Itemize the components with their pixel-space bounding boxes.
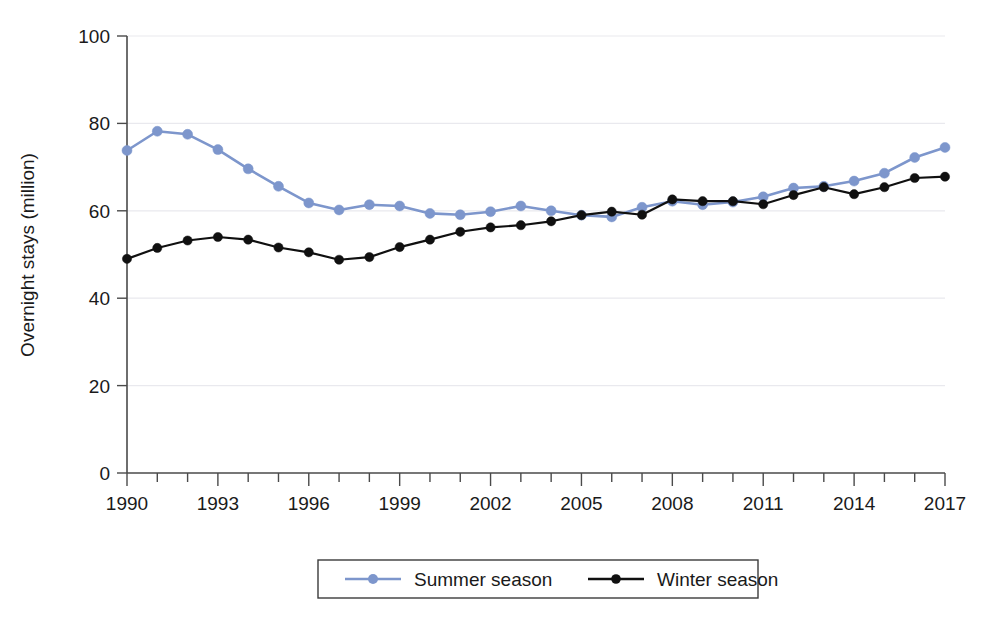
chart-canvas: 020406080100 199019931996199920022005200… <box>0 0 983 624</box>
data-point <box>789 190 798 199</box>
data-point <box>334 205 344 215</box>
data-point <box>516 201 526 211</box>
legend-label: Summer season <box>414 569 552 590</box>
data-point <box>486 223 495 232</box>
x-axis: 1990199319961999200220052008201120142017 <box>106 473 966 514</box>
data-point <box>122 145 132 155</box>
data-point <box>728 197 737 206</box>
x-tick-label: 2005 <box>560 493 602 514</box>
data-point <box>304 248 313 257</box>
data-point <box>425 235 434 244</box>
series-winter <box>122 172 949 264</box>
data-point <box>940 172 949 181</box>
y-tick-label: 0 <box>99 463 110 484</box>
data-point <box>516 221 525 230</box>
data-point <box>455 210 465 220</box>
data-point <box>334 255 343 264</box>
data-point <box>668 195 677 204</box>
y-tick-label: 60 <box>89 201 110 222</box>
x-tick-label: 2002 <box>469 493 511 514</box>
y-tick-labels: 020406080100 <box>78 26 110 484</box>
data-point <box>365 253 374 262</box>
data-point <box>940 142 950 152</box>
y-axis: 020406080100 <box>78 26 127 484</box>
data-point <box>243 164 253 174</box>
data-point <box>273 181 283 191</box>
x-tick-label: 1990 <box>106 493 148 514</box>
data-point <box>637 210 646 219</box>
y-axis-title: Overnight stays (million) <box>17 153 38 357</box>
x-tick-label: 2014 <box>833 493 876 514</box>
data-point <box>183 236 192 245</box>
data-point <box>244 235 253 244</box>
data-point <box>547 217 556 226</box>
data-point <box>879 168 889 178</box>
data-point <box>486 207 496 217</box>
data-point <box>910 152 920 162</box>
data-point <box>759 200 768 209</box>
gridlines <box>127 36 945 386</box>
y-tick-label: 100 <box>78 26 110 47</box>
data-point <box>880 183 889 192</box>
data-point <box>213 145 223 155</box>
data-point <box>698 197 707 206</box>
y-tick-label: 40 <box>89 288 110 309</box>
data-point <box>364 200 374 210</box>
data-series-layer <box>122 126 950 264</box>
x-tick-labels: 1990199319961999200220052008201120142017 <box>106 493 966 514</box>
data-point <box>183 129 193 139</box>
data-point <box>153 243 162 252</box>
x-tick-label: 2017 <box>924 493 966 514</box>
data-point <box>213 232 222 241</box>
data-point <box>849 176 859 186</box>
x-tick-label: 1999 <box>379 493 421 514</box>
series-line <box>127 131 945 217</box>
x-tick-label: 2008 <box>651 493 693 514</box>
data-point <box>152 126 162 136</box>
legend-label: Winter season <box>657 569 778 590</box>
data-point <box>274 243 283 252</box>
legend-marker <box>611 574 621 584</box>
data-point <box>395 201 405 211</box>
data-point <box>910 173 919 182</box>
series-summer <box>122 126 950 222</box>
data-point <box>607 207 616 216</box>
y-tick-label: 20 <box>89 376 110 397</box>
x-tick-label: 1996 <box>288 493 330 514</box>
data-point <box>425 208 435 218</box>
data-point <box>456 227 465 236</box>
data-point <box>819 183 828 192</box>
data-point <box>546 206 556 216</box>
data-point <box>577 211 586 220</box>
data-point <box>122 254 131 263</box>
data-point <box>850 190 859 199</box>
data-point <box>395 242 404 251</box>
x-tick-label: 1993 <box>197 493 239 514</box>
data-point <box>304 198 314 208</box>
chart-legend: Summer seasonWinter season <box>318 560 778 598</box>
x-tick-marks <box>127 473 945 486</box>
y-tick-label: 80 <box>89 113 110 134</box>
line-chart: 020406080100 199019931996199920022005200… <box>0 0 983 624</box>
legend-marker <box>368 574 378 584</box>
x-tick-label: 2011 <box>743 493 784 514</box>
